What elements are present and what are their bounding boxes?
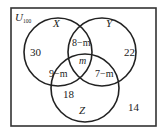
set-label-y: Y: [106, 17, 114, 29]
region-x-y-z: m: [79, 55, 86, 66]
region-z-only: 18: [63, 88, 75, 100]
set-label-z: Z: [79, 104, 86, 116]
venn-diagram: U 100 X Y Z 30 22 18 8−m 9−m 7−m m 14: [0, 0, 162, 133]
set-label-x: X: [52, 17, 61, 29]
region-y-only: 22: [124, 46, 135, 58]
region-x-and-y: 8−m: [72, 37, 91, 48]
region-outside: 14: [128, 101, 140, 113]
universe-subscript: 100: [23, 18, 32, 24]
region-y-and-z: 7−m: [95, 68, 114, 79]
region-x-and-z: 9−m: [49, 68, 68, 79]
region-x-only: 30: [30, 46, 42, 58]
